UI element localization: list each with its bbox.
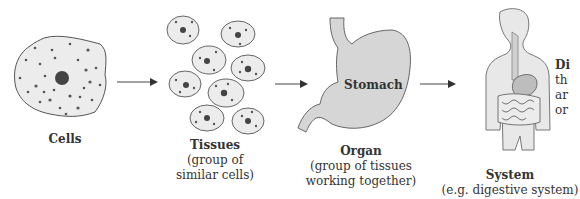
organ-inner-label: Stomach — [344, 78, 403, 92]
stage-subtitle: (group of tissues — [296, 159, 426, 174]
cell-illustration — [15, 36, 106, 116]
stage-subtitle: working together) — [296, 174, 426, 189]
arrow-icon — [117, 78, 158, 86]
stage-organ: Organ (group of tissues working together… — [296, 144, 426, 189]
arrow-icon — [275, 80, 308, 88]
stage-cells: Cells — [30, 132, 100, 147]
stage-system: System (e.g. digestive system) — [440, 168, 580, 198]
stage-title: Cells — [30, 132, 100, 147]
tissue-illustration — [167, 16, 265, 134]
stomach-illustration — [298, 18, 410, 132]
side-text-truncated: Di th ar or — [555, 58, 570, 118]
arrow-icon — [420, 80, 456, 88]
stage-subtitle: (group of — [160, 153, 270, 168]
stage-subtitle: similar cells) — [160, 168, 270, 183]
stage-subtitle: (e.g. digestive system) — [440, 183, 580, 198]
stage-title: Organ — [296, 144, 426, 159]
stage-title: Tissues — [160, 138, 270, 153]
digestive-system-illustration — [486, 9, 550, 150]
stage-tissues: Tissues (group of similar cells) — [160, 138, 270, 183]
stage-title: System — [440, 168, 580, 183]
